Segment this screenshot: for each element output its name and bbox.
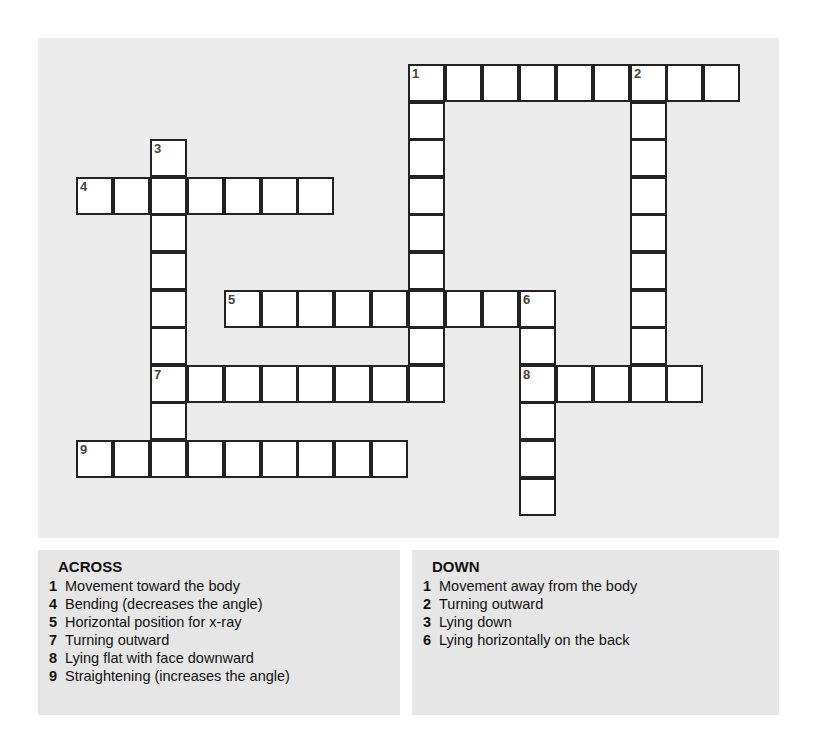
clue-text: Horizontal position for x-ray xyxy=(65,614,242,630)
crossword-cell[interactable] xyxy=(334,440,371,478)
crossword-cell[interactable] xyxy=(445,290,482,328)
down-clue: 2Turning outward xyxy=(423,595,779,613)
crossword-cell[interactable] xyxy=(224,177,261,215)
crossword-cell[interactable] xyxy=(408,102,445,140)
crossword-cell[interactable] xyxy=(261,290,298,328)
crossword-cell[interactable] xyxy=(187,365,224,403)
cell-number: 1 xyxy=(412,67,419,80)
crossword-cell[interactable] xyxy=(150,290,187,328)
crossword-cell[interactable] xyxy=(297,440,334,478)
crossword-cell[interactable] xyxy=(371,440,408,478)
crossword-cell[interactable] xyxy=(482,290,519,328)
clue-number: 5 xyxy=(49,613,65,631)
crossword-cell[interactable] xyxy=(150,252,187,290)
crossword-cell[interactable] xyxy=(334,365,371,403)
cell-number: 8 xyxy=(523,368,530,381)
across-clue: 1Movement toward the body xyxy=(49,577,400,595)
crossword-cell[interactable] xyxy=(519,64,556,102)
crossword-cell[interactable]: 8 xyxy=(519,365,556,403)
clue-text: Bending (decreases the angle) xyxy=(65,596,263,612)
crossword-cell[interactable]: 1 xyxy=(408,64,445,102)
crossword-cell[interactable] xyxy=(408,177,445,215)
down-clues-panel: DOWN 1Movement away from the body 2Turni… xyxy=(412,550,779,715)
crossword-cell[interactable] xyxy=(593,64,630,102)
crossword-cell[interactable] xyxy=(482,64,519,102)
crossword-cell[interactable] xyxy=(519,478,556,516)
clue-text: Lying down xyxy=(439,614,512,630)
crossword-cell[interactable] xyxy=(519,327,556,365)
clue-text: Lying horizontally on the back xyxy=(439,632,630,648)
crossword-cell[interactable] xyxy=(630,214,667,252)
crossword-cell[interactable] xyxy=(408,214,445,252)
crossword-cell[interactable] xyxy=(630,365,667,403)
crossword-cell[interactable] xyxy=(630,102,667,140)
crossword-cell[interactable] xyxy=(556,64,593,102)
clue-text: Movement away from the body xyxy=(439,578,637,594)
crossword-cell[interactable] xyxy=(593,365,630,403)
clue-text: Lying flat with face downward xyxy=(65,650,254,666)
crossword-cell[interactable]: 5 xyxy=(224,290,261,328)
crossword-cell[interactable] xyxy=(187,440,224,478)
clue-text: Turning outward xyxy=(65,632,169,648)
crossword-cell[interactable] xyxy=(666,64,703,102)
crossword-cell[interactable] xyxy=(150,402,187,440)
clue-number: 9 xyxy=(49,667,65,685)
crossword-cell[interactable] xyxy=(630,177,667,215)
crossword-cell[interactable]: 2 xyxy=(630,64,667,102)
crossword-cell[interactable] xyxy=(445,64,482,102)
clue-number: 3 xyxy=(423,613,439,631)
crossword-cell[interactable] xyxy=(224,365,261,403)
crossword-cell[interactable] xyxy=(519,402,556,440)
crossword-cell[interactable] xyxy=(187,177,224,215)
crossword-cell[interactable] xyxy=(519,440,556,478)
crossword-cell[interactable] xyxy=(150,440,187,478)
crossword-cell[interactable] xyxy=(224,440,261,478)
crossword-cell[interactable] xyxy=(334,290,371,328)
crossword-cell[interactable] xyxy=(630,252,667,290)
crossword-cell[interactable]: 9 xyxy=(76,440,113,478)
crossword-cell[interactable] xyxy=(408,365,445,403)
cell-number: 3 xyxy=(154,142,161,155)
down-title: DOWN xyxy=(432,558,779,575)
crossword-cell[interactable] xyxy=(113,177,150,215)
across-title: ACROSS xyxy=(58,558,400,575)
crossword-cell[interactable] xyxy=(630,139,667,177)
crossword-cell[interactable] xyxy=(556,365,593,403)
crossword-cell[interactable] xyxy=(408,139,445,177)
crossword-cell[interactable] xyxy=(150,214,187,252)
crossword-cell[interactable] xyxy=(630,290,667,328)
crossword-cell[interactable] xyxy=(371,290,408,328)
crossword-cell[interactable] xyxy=(630,327,667,365)
crossword-cell[interactable] xyxy=(150,327,187,365)
crossword-cell[interactable] xyxy=(261,177,298,215)
clue-number: 4 xyxy=(49,595,65,613)
down-clue: 6Lying horizontally on the back xyxy=(423,631,779,649)
clue-text: Turning outward xyxy=(439,596,543,612)
crossword-cell[interactable] xyxy=(371,365,408,403)
crossword-cell[interactable] xyxy=(703,64,740,102)
crossword-cell[interactable] xyxy=(113,440,150,478)
crossword-cell[interactable]: 7 xyxy=(150,365,187,403)
crossword-cell[interactable]: 4 xyxy=(76,177,113,215)
clue-text: Straightening (increases the angle) xyxy=(65,668,290,684)
crossword-cell[interactable]: 6 xyxy=(519,290,556,328)
cell-number: 4 xyxy=(80,180,87,193)
clue-number: 1 xyxy=(49,577,65,595)
cell-number: 9 xyxy=(80,443,87,456)
down-clue: 1Movement away from the body xyxy=(423,577,779,595)
crossword-cell[interactable] xyxy=(408,252,445,290)
crossword-cell[interactable] xyxy=(408,327,445,365)
crossword-cell[interactable] xyxy=(150,177,187,215)
crossword-cell[interactable] xyxy=(261,440,298,478)
crossword-cell[interactable] xyxy=(261,365,298,403)
crossword-cell[interactable] xyxy=(408,290,445,328)
crossword-cell[interactable] xyxy=(297,365,334,403)
cell-number: 2 xyxy=(634,67,641,80)
crossword-cell[interactable] xyxy=(666,365,703,403)
cell-number: 5 xyxy=(228,293,235,306)
crossword-cell[interactable]: 3 xyxy=(150,139,187,177)
cell-number: 6 xyxy=(523,293,530,306)
clue-number: 6 xyxy=(423,631,439,649)
crossword-cell[interactable] xyxy=(297,177,334,215)
crossword-cell[interactable] xyxy=(297,290,334,328)
